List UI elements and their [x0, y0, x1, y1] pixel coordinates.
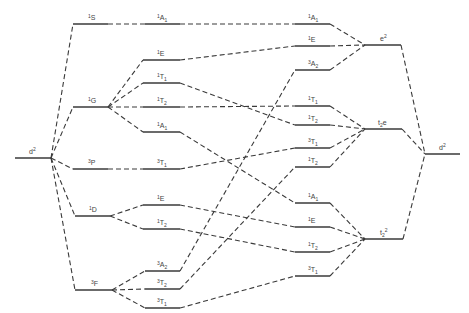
svg-text:e2: e2 [380, 33, 387, 42]
svg-text:t22: t22 [380, 227, 388, 238]
connections-d2-to-terms [51, 24, 75, 290]
connections-terms-to-weak [108, 24, 145, 308]
svg-text:1E: 1E [308, 35, 316, 43]
svg-text:1T2: 1T2 [157, 96, 167, 106]
svg-text:1E: 1E [308, 216, 316, 224]
svg-text:3T2: 3T2 [157, 278, 167, 288]
label-d2-left: d2 [29, 146, 36, 155]
svg-text:1A1: 1A1 [308, 192, 318, 202]
strong-field-states: 1A1 1E 3A2 1T1 1T2 3T1 1T2 1A1 1E 1T2 3T… [295, 13, 330, 276]
svg-text:3P: 3P [88, 158, 96, 166]
svg-text:1E: 1E [157, 194, 165, 202]
svg-text:1T1: 1T1 [308, 95, 318, 105]
free-ion-terms: 1S 1G 3P 1D 3F [73, 13, 112, 290]
svg-text:3T1: 3T1 [308, 265, 318, 275]
svg-text:3F: 3F [91, 279, 98, 287]
svg-text:1T2: 1T2 [308, 114, 318, 124]
svg-text:1S: 1S [88, 13, 96, 21]
svg-text:3T1: 3T1 [157, 158, 167, 168]
correlation-diagram: d2 1S 1G 3P 1D 3F 1A1 1E 1T1 1T2 1A1 3T1 [0, 0, 469, 313]
svg-text:1T2: 1T2 [157, 218, 167, 228]
svg-text:3A2: 3A2 [157, 260, 167, 270]
svg-text:1D: 1D [89, 205, 97, 213]
weak-field-states: 1A1 1E 1T1 1T2 1A1 3T1 1E 1T2 3A2 3T2 3T… [143, 13, 180, 308]
svg-text:t2e: t2e [378, 119, 387, 128]
svg-text:3T1: 3T1 [308, 137, 318, 147]
label-d2-right: d2 [439, 142, 446, 151]
svg-text:3A2: 3A2 [308, 59, 318, 69]
connections-configs-to-d2 [401, 45, 425, 239]
svg-text:1A1: 1A1 [308, 13, 318, 23]
svg-text:1G: 1G [88, 96, 96, 104]
correlation-lines [180, 24, 295, 308]
svg-text:1A1: 1A1 [157, 13, 167, 23]
svg-text:3T1: 3T1 [157, 297, 167, 307]
svg-text:1E: 1E [157, 49, 165, 57]
svg-text:1T2: 1T2 [308, 241, 318, 251]
svg-text:1A1: 1A1 [157, 121, 167, 131]
strong-field-configs: e2 t2e t22 [365, 33, 403, 239]
svg-text:1T1: 1T1 [157, 72, 167, 82]
svg-text:1T2: 1T2 [308, 156, 318, 166]
connections-states-to-configs [330, 24, 365, 276]
